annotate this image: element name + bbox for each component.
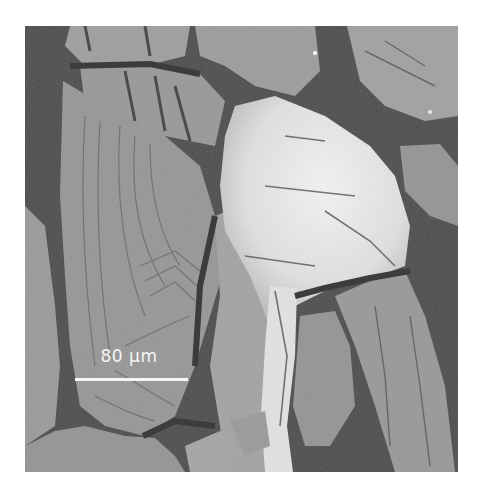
scale-bar-label: 80 µm (98, 346, 160, 366)
micrograph-texture (25, 26, 458, 472)
scale-bar (75, 378, 188, 381)
sem-micrograph: 80 µm (25, 26, 458, 472)
